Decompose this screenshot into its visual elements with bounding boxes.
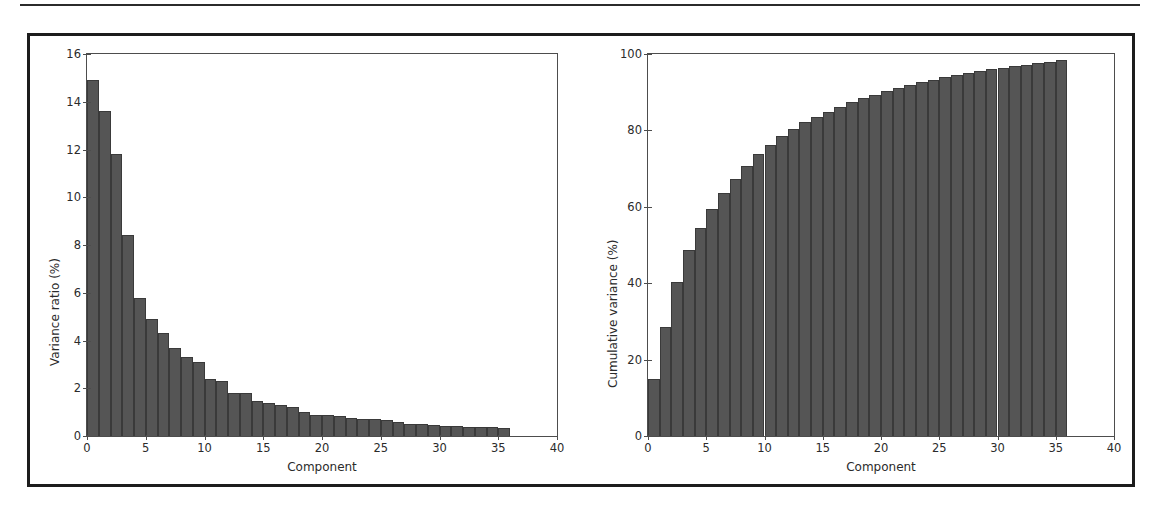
y-axis-tick-label: 20 <box>627 353 642 367</box>
x-axis-tick-mark <box>998 435 999 440</box>
bar <box>765 145 777 436</box>
x-axis-tick-mark <box>205 435 206 440</box>
bar <box>881 91 893 436</box>
bar <box>683 250 695 436</box>
bar <box>811 117 823 436</box>
x-axis-tick-label: 5 <box>142 441 149 455</box>
y-axis-tick-mark-inner <box>87 293 91 294</box>
bar <box>169 348 181 436</box>
y-axis-tick-mark-inner <box>648 283 652 284</box>
y-axis-tick-mark-inner <box>648 360 652 361</box>
x-axis-tick-mark <box>765 435 766 440</box>
x-axis-tick-label: 10 <box>197 441 212 455</box>
bars-variance-ratio <box>87 54 557 436</box>
bar <box>660 327 672 436</box>
x-axis-tick-label: 35 <box>1048 441 1063 455</box>
bar <box>181 357 193 436</box>
x-axis-tick-label: 20 <box>315 441 330 455</box>
bar <box>916 82 928 436</box>
x-axis-tick-label: 15 <box>256 441 271 455</box>
bar <box>799 122 811 436</box>
chart-panel-variance-ratio: 02468101214160510152025303540Component V… <box>30 36 584 490</box>
bar <box>869 95 881 436</box>
bar <box>986 69 998 436</box>
bar <box>287 407 299 436</box>
x-axis-tick-mark <box>939 435 940 440</box>
x-axis-tick-label: 30 <box>990 441 1005 455</box>
y-axis-title-cumulative-variance: Cumulative variance (%) <box>606 239 620 388</box>
x-axis-tick-mark <box>263 435 264 440</box>
bar <box>111 154 123 436</box>
bar <box>310 415 322 436</box>
y-axis-tick-mark-inner <box>648 207 652 208</box>
bar <box>122 235 134 436</box>
bar <box>463 427 475 436</box>
bar <box>695 228 707 436</box>
bar <box>451 426 463 436</box>
bar <box>741 166 753 436</box>
chart-panel-cumulative-variance: 0204060801000510152025303540Component Cu… <box>584 36 1138 490</box>
y-axis-tick-label: 80 <box>627 123 642 137</box>
bar <box>393 422 405 436</box>
bar <box>252 401 264 436</box>
bar <box>193 362 205 436</box>
y-axis-tick-mark-inner <box>87 388 91 389</box>
y-axis-tick-label: 100 <box>620 47 642 61</box>
y-axis-tick-mark-inner <box>648 130 652 131</box>
x-axis-title: Component <box>87 460 557 474</box>
bar <box>158 333 170 436</box>
bar <box>228 393 240 436</box>
bar <box>730 179 742 436</box>
plot-axes-cumulative-variance: 0204060801000510152025303540Component <box>647 53 1115 437</box>
x-axis-tick-label: 40 <box>550 441 565 455</box>
bar <box>205 379 217 436</box>
y-axis-tick-mark-inner <box>87 245 91 246</box>
y-axis-tick-mark-inner <box>87 150 91 151</box>
bar <box>1032 63 1044 436</box>
y-axis-tick-label: 4 <box>74 334 81 348</box>
x-axis-tick-mark <box>881 435 882 440</box>
bar <box>823 112 835 437</box>
x-axis-tick-mark <box>1114 435 1115 440</box>
bar <box>753 154 765 436</box>
y-axis-tick-mark-inner <box>87 341 91 342</box>
bar <box>404 424 416 436</box>
y-axis-tick-label: 60 <box>627 200 642 214</box>
x-axis-tick-mark <box>440 435 441 440</box>
x-axis-tick-mark <box>146 435 147 440</box>
bar <box>416 424 428 436</box>
bar <box>1044 62 1056 436</box>
y-axis-tick-label: 2 <box>74 381 81 395</box>
x-axis-tick-label: 15 <box>815 441 830 455</box>
x-axis-tick-mark <box>87 435 88 440</box>
x-axis-title: Component <box>648 460 1114 474</box>
bar <box>357 419 369 436</box>
y-axis-tick-mark-inner <box>648 54 652 55</box>
bar <box>440 426 452 436</box>
bar <box>1009 66 1021 436</box>
bar <box>858 98 870 436</box>
bar <box>706 209 718 436</box>
x-axis-tick-mark <box>706 435 707 440</box>
y-axis-tick-label: 6 <box>74 286 81 300</box>
bar <box>718 193 730 436</box>
x-axis-tick-label: 0 <box>83 441 90 455</box>
bar <box>1056 60 1068 436</box>
bar <box>216 381 228 436</box>
y-axis-tick-label: 0 <box>635 429 642 443</box>
bar <box>87 80 99 436</box>
bar <box>334 416 346 436</box>
x-axis-tick-mark <box>381 435 382 440</box>
bar <box>240 393 252 436</box>
x-axis-tick-label: 0 <box>644 441 651 455</box>
x-axis-tick-label: 30 <box>432 441 447 455</box>
y-axis-tick-mark-inner <box>87 197 91 198</box>
y-axis-tick-label: 8 <box>74 238 81 252</box>
y-axis-tick-mark-inner <box>87 54 91 55</box>
page-horizontal-rule <box>20 4 1140 6</box>
bar <box>322 415 334 436</box>
x-axis-tick-mark <box>557 435 558 440</box>
x-axis-tick-label: 25 <box>373 441 388 455</box>
bar <box>998 68 1010 436</box>
bar <box>846 102 858 436</box>
